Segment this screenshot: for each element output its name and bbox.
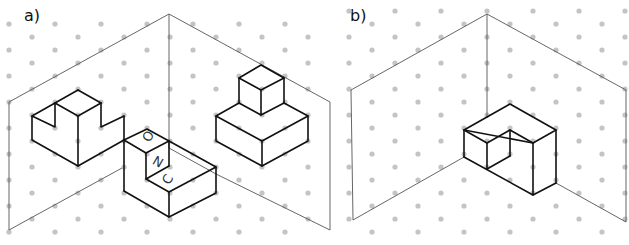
isometric-diagram: O N C: [0, 0, 629, 245]
dot-grid-a: [6, 21, 310, 234]
letter-c: C: [159, 172, 177, 187]
letter-o: O: [139, 128, 157, 144]
figure-a-letter-block: O N C: [124, 128, 216, 217]
figure-a-notched-block: [32, 90, 124, 166]
letter-n: N: [150, 153, 166, 171]
figure-b-corner: [351, 14, 626, 222]
